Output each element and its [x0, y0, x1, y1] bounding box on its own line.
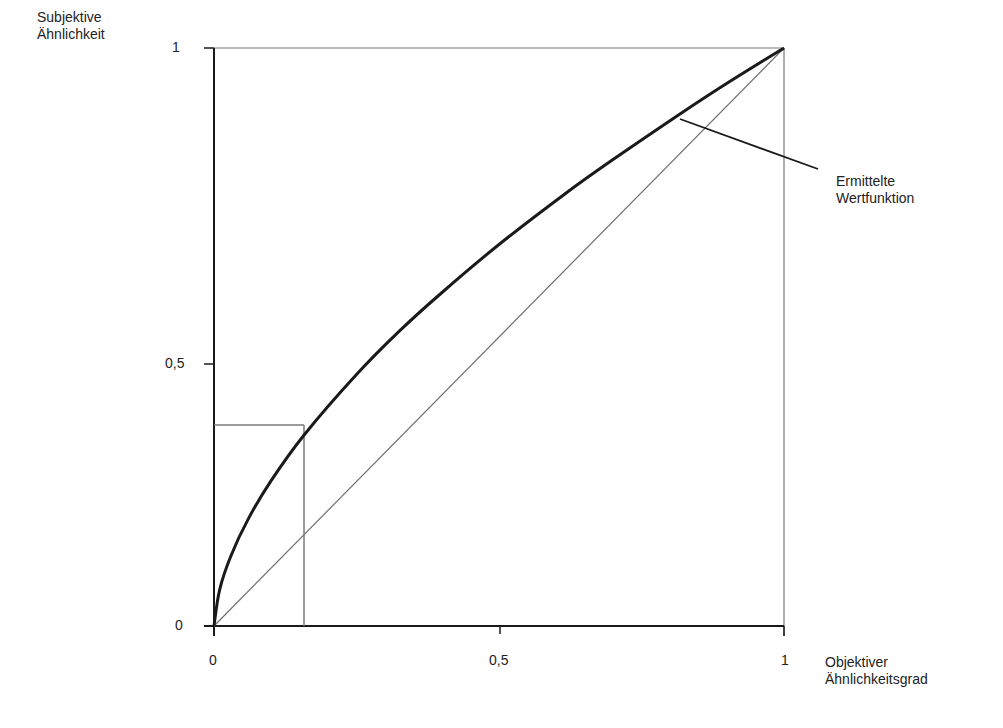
x-tick-label-05: 0,5 [489, 652, 508, 669]
y-axis-label-line2: Ähnlichkeit [37, 26, 105, 43]
x-tick-label-0: 0 [209, 652, 217, 669]
annotation-leader-line [680, 119, 818, 169]
annotation-label-line2: Wertfunktion [836, 190, 914, 207]
diagonal-line [214, 48, 784, 626]
y-axis-label-line1: Subjektive [37, 9, 102, 26]
y-tick-label-05: 0,5 [165, 355, 184, 372]
chart-canvas [0, 0, 1003, 728]
annotation-label-line1: Ermittelte [836, 173, 895, 190]
x-tick-label-1: 1 [781, 652, 789, 669]
y-tick-label-0: 0 [175, 617, 183, 634]
x-axis-label-line1: Objektiver [825, 654, 888, 671]
y-tick-label-1: 1 [172, 39, 180, 56]
x-axis-label-line2: Ähnlichkeitsgrad [825, 671, 928, 688]
